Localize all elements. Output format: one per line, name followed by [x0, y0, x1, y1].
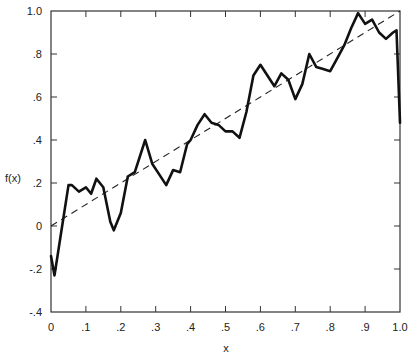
- x-tick-label: 1.0: [392, 321, 407, 333]
- y-tick-label: 0: [36, 220, 42, 232]
- y-tick-label: .6: [33, 91, 42, 103]
- x-tick-label: .4: [186, 321, 195, 333]
- x-tick-label: .1: [81, 321, 90, 333]
- y-tick-label: .4: [33, 134, 42, 146]
- y-tick-label: -.4: [29, 306, 42, 318]
- y-axis-label: f(x): [5, 172, 21, 184]
- x-tick-label: .3: [151, 321, 160, 333]
- x-tick-label: .7: [291, 321, 300, 333]
- y-tick-label: .2: [33, 177, 42, 189]
- x-tick-label: .6: [256, 321, 265, 333]
- plot-frame: [51, 11, 400, 312]
- function-curve: [51, 13, 400, 275]
- y-tick-label: .8: [33, 48, 42, 60]
- x-tick-label: .5: [221, 321, 230, 333]
- chart: 0.1.2.3.4.5.6.7.8.91.0 -.4-.20.2.4.6.81.…: [0, 0, 417, 360]
- y-tick-label: -.2: [29, 263, 42, 275]
- y-tick-label: 1.0: [27, 5, 42, 17]
- x-tick-label: 0: [48, 321, 54, 333]
- y-axis-ticks: -.4-.20.2.4.6.81.0: [27, 5, 400, 318]
- x-axis-ticks: 0.1.2.3.4.5.6.7.8.91.0: [48, 11, 408, 333]
- x-tick-label: .2: [116, 321, 125, 333]
- x-tick-label: .9: [361, 321, 370, 333]
- x-axis-label: x: [223, 342, 229, 354]
- x-tick-label: .8: [326, 321, 335, 333]
